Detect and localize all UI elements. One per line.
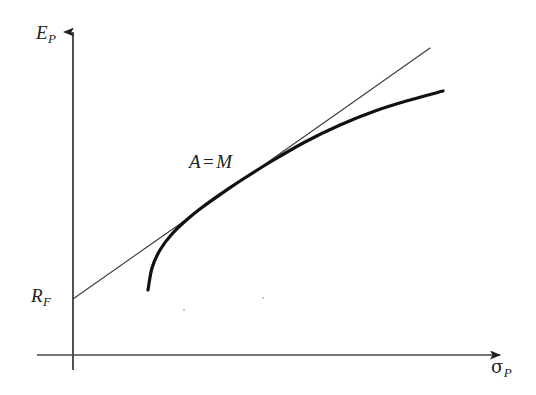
x-axis-label: σP: [491, 358, 512, 379]
tangency-label-operator: =: [203, 151, 214, 172]
scan-speck: [183, 309, 185, 311]
x-axis-label-subscript: P: [504, 365, 512, 380]
x-axis-label-base: σ: [491, 356, 503, 377]
tangency-label-left: A: [189, 151, 201, 172]
y-axis-label-base: E: [36, 22, 48, 43]
efficient-frontier-curve: [148, 91, 443, 290]
risk-free-rate-label-base: R: [31, 285, 43, 306]
tangency-point-label: A=M: [189, 152, 232, 171]
risk-free-rate-label: RF: [31, 286, 51, 308]
tangency-label-right: M: [216, 151, 232, 172]
risk-free-rate-label-subscript: F: [43, 294, 51, 309]
y-axis-label: EP: [36, 23, 56, 45]
axes-group: [37, 32, 500, 370]
capital-market-line-figure: EP RF σP A=M: [0, 0, 536, 395]
scan-speck: [262, 297, 264, 299]
figure-canvas: [0, 0, 536, 395]
plot-series-group: [73, 48, 443, 299]
y-axis-label-subscript: P: [48, 31, 56, 46]
